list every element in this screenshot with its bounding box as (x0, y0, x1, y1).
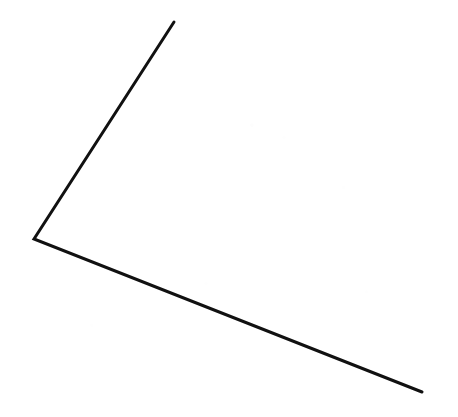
angle-line-drawing (0, 0, 458, 417)
drawing-canvas (0, 0, 458, 417)
canvas-background (0, 0, 458, 417)
